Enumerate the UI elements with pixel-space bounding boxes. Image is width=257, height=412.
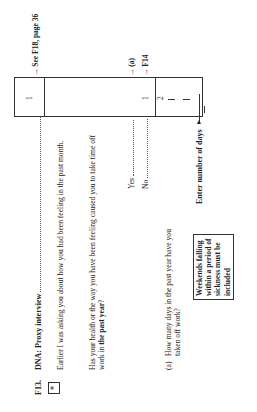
enter-days-instruction: Enter number of days	[195, 129, 204, 204]
route-no: → F14	[141, 55, 150, 76]
questionnaire-page: F13. * DNA: Proxy interview Earlier I wa…	[0, 0, 257, 412]
route-dna: → See F18, page 36	[31, 14, 40, 76]
intro-text: Earlier I was asking you about how you h…	[56, 130, 65, 370]
days-entry-field[interactable]	[156, 78, 203, 116]
asterisk-marker-icon: *	[48, 382, 60, 394]
divider	[44, 78, 45, 116]
question-number: F13.	[34, 380, 43, 395]
sub-question: How many days in the past year have you …	[164, 226, 183, 356]
option-no[interactable]: No	[141, 119, 150, 189]
dna-code[interactable]: 1	[25, 96, 34, 100]
dna-title: DNA: Proxy interview	[34, 117, 43, 370]
option-yes[interactable]: Yes	[127, 120, 136, 189]
sub-question-label: (a)	[164, 362, 173, 370]
leader-dots	[40, 117, 41, 292]
yes-code[interactable]: 1	[141, 96, 150, 100]
arrow-right-icon: ▸	[194, 120, 203, 124]
main-question: Has your health or the way you have been…	[88, 130, 107, 370]
route-yes: → (a)	[127, 58, 136, 76]
weekend-note: Weekends falling within a period of sick…	[193, 234, 234, 300]
dna-title-text: DNA: Proxy interview	[34, 294, 43, 370]
answer-box: 1 1 2	[14, 77, 203, 117]
